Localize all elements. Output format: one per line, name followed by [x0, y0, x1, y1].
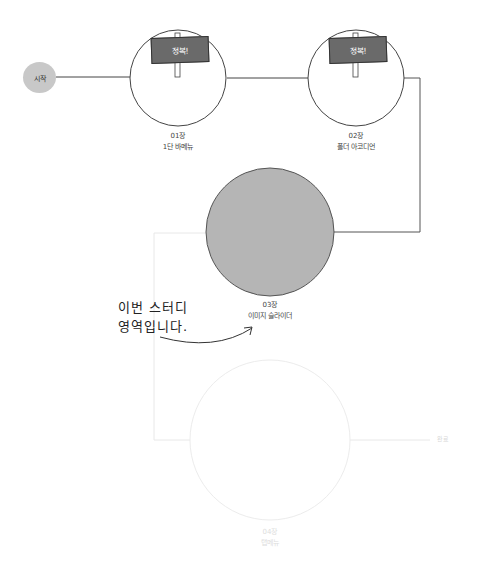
node-label-03: 03장 이미지 슬라이더 [220, 300, 320, 322]
roadmap-paths [0, 0, 477, 578]
node-circle-03 [206, 168, 334, 296]
node-label-02: 02장 폴더 아코디언 [306, 131, 406, 153]
start-node: 시작 [23, 62, 56, 93]
node-circle-04 [190, 360, 350, 520]
sign-label: 정복! [349, 44, 367, 56]
node-label-04: 04장 탭메뉴 [220, 527, 320, 549]
node-chapter: 01장 [128, 131, 228, 142]
node-chapter: 02장 [306, 131, 406, 142]
annotation-line-1: 이번 스터디 [118, 298, 188, 317]
sign-label: 정복! [171, 44, 189, 56]
node-title: 1단 바메뉴 [128, 142, 228, 153]
end-label: 완료 [437, 434, 449, 443]
annotation-line-2: 영역입니다. [118, 317, 188, 336]
start-label: 시작 [34, 73, 46, 83]
node-title: 이미지 슬라이더 [220, 311, 320, 322]
node-chapter: 03장 [220, 300, 320, 311]
node-label-01: 01장 1단 바메뉴 [128, 131, 228, 153]
conquered-sign-02: 정복! [329, 36, 388, 64]
node-title: 폴더 아코디언 [306, 142, 406, 153]
node-title: 탭메뉴 [220, 538, 320, 549]
node-chapter: 04장 [220, 527, 320, 538]
conquered-sign-01: 정복! [151, 36, 210, 64]
study-scope-annotation: 이번 스터디 영역입니다. [118, 298, 188, 336]
